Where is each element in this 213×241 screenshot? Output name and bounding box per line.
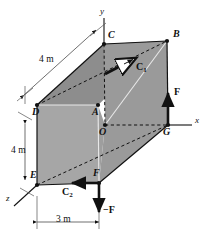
axis-label-y: y — [100, 7, 104, 16]
vertex-dot-B — [165, 39, 169, 43]
vector-label-F-down: −F — [103, 205, 115, 215]
axis-label-z: z — [6, 194, 10, 203]
dimension-label-width: 3 m — [56, 215, 71, 225]
vertex-label-A: A — [92, 107, 99, 117]
vertex-dot-E — [35, 183, 39, 187]
box-faces — [37, 41, 168, 185]
vertex-label-C: C — [108, 30, 115, 40]
vector-label-C2-sub: 2 — [69, 191, 73, 199]
vertex-dot-C — [102, 42, 106, 46]
dim-height-ext-top — [18, 112, 32, 120]
box-left-face — [37, 105, 99, 185]
vertex-label-O: O — [99, 127, 106, 137]
statics-diagram-figure: y x z C B D A O G E F 4 m 4 m 3 m C1 C2 … — [0, 0, 213, 241]
vector-label-C1-sub: 1 — [143, 66, 147, 74]
vertex-label-E: E — [30, 170, 37, 180]
vertex-label-F: F — [93, 168, 100, 178]
vertex-label-G: G — [163, 127, 170, 137]
vector-label-C2: C2 — [62, 187, 73, 199]
dimension-label-depth: 4 m — [39, 55, 54, 65]
vector-label-F-up: F — [174, 87, 180, 97]
dimension-label-height: 4 m — [11, 146, 26, 156]
vector-label-C1: C1 — [136, 62, 147, 74]
vertex-label-B: B — [173, 29, 180, 39]
vertex-label-D: D — [32, 107, 39, 117]
axis-label-x: x — [195, 116, 199, 125]
